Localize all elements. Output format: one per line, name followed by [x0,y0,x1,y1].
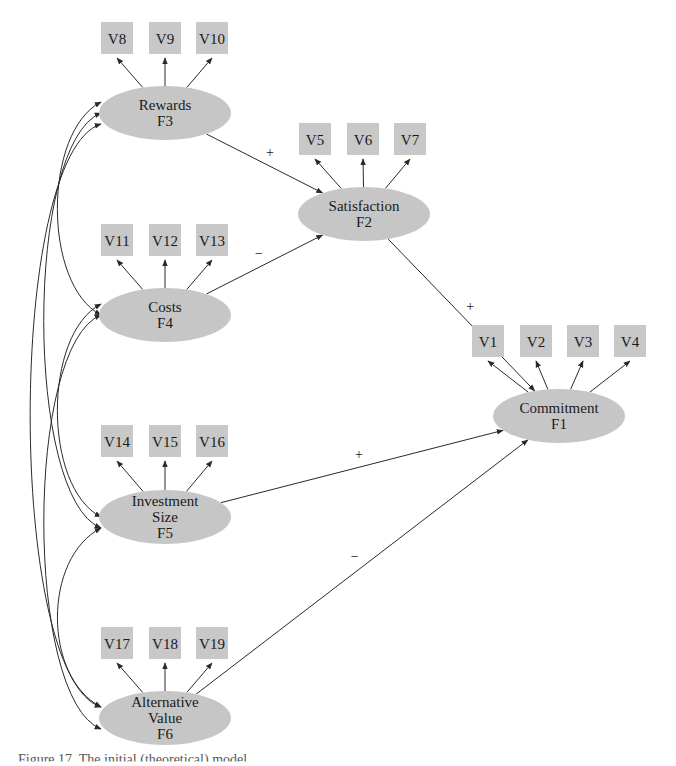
loading-arrow [590,361,630,392]
indicator-label: V7 [401,132,420,148]
loading-arrow [117,260,143,290]
path-diagram: +−++− V8V9V10V5V6V7V11V12V13V1V2V3V4V14V… [0,0,676,766]
indicator-label: V13 [199,233,225,249]
loading-arrow [117,461,143,492]
indicator-label: V19 [199,636,225,652]
factor-label: Size [152,509,178,525]
loading-arrow [571,361,583,389]
indicator-label: V4 [621,334,640,350]
indicator-label: V8 [108,31,126,47]
factor-label: Satisfaction [329,198,400,214]
factor-investment-size: InvestmentSizeF5 [99,490,231,544]
covariance-arcs [30,102,101,729]
indicator-v18: V18 [149,627,181,659]
indicator-label: V16 [199,434,225,450]
loading-arrow [187,663,212,693]
indicator-v5: V5 [299,123,331,155]
indicator-v9: V9 [149,22,181,54]
indicator-label: V2 [527,334,545,350]
factor-label: F2 [356,214,372,230]
factor-alternative-value: AlternativeValueF6 [99,691,231,745]
path-sign: − [351,549,359,564]
indicator-v2: V2 [520,325,552,357]
indicator-label: V9 [156,31,174,47]
factor-label: F1 [551,416,567,432]
indicator-label: V10 [199,31,225,47]
factor-label: F5 [157,525,173,541]
path-f6-to-f1 [196,440,528,694]
factor-label: Investment [132,493,199,509]
covariance-f3-f6 [30,124,101,707]
factor-commitment: CommitmentF1 [493,389,625,443]
loading-arrow [536,361,548,389]
factor-label: Alternative [131,694,199,710]
loading-arrow [117,58,143,88]
loading-arrow [315,159,341,189]
path-f2-to-f1 [388,239,535,391]
indicator-v6: V6 [347,123,379,155]
indicator-v17: V17 [101,627,133,659]
factor-label: F3 [157,113,173,129]
indicator-v14: V14 [101,425,133,457]
factor-satisfaction: SatisfactionF2 [298,187,430,241]
factor-label: Costs [148,299,182,315]
indicator-label: V14 [104,434,130,450]
loading-arrow [385,159,410,188]
indicator-v7: V7 [394,123,426,155]
indicator-v19: V19 [196,627,228,659]
indicator-label: V11 [104,233,129,249]
indicator-v10: V10 [196,22,228,54]
indicator-label: V15 [152,434,178,450]
indicator-label: V5 [306,132,324,148]
path-sign: + [355,447,363,462]
factor-rewards: RewardsF3 [99,86,231,140]
indicator-v11: V11 [101,224,133,256]
indicator-v12: V12 [149,224,181,256]
indicator-v3: V3 [567,325,599,357]
indicator-label: V17 [104,636,130,652]
indicator-label: V1 [479,334,497,350]
indicator-v4: V4 [614,325,646,357]
factor-label: Commitment [519,400,599,416]
loading-arrow [363,159,364,187]
indicator-label: V6 [354,132,373,148]
indicator-v1: V1 [472,325,504,357]
indicator-v15: V15 [149,425,181,457]
loading-arrow [187,58,212,88]
path-sign: + [266,145,274,160]
indicator-v8: V8 [101,22,133,54]
factor-label: Value [148,710,182,726]
indicator-v13: V13 [196,224,228,256]
factor-costs: CostsF4 [99,288,231,342]
path-sign: + [466,299,474,314]
loading-arrow [117,663,143,693]
path-sign: − [255,246,263,261]
indicator-label: V12 [152,233,178,249]
covariance-f4-f5 [57,304,101,517]
factor-label: Rewards [139,97,192,113]
covariance-f3-f4 [57,102,101,315]
loading-arrow [187,260,212,290]
factor-label: F4 [157,315,173,331]
loading-arrow [488,361,528,392]
indicator-v16: V16 [196,425,228,457]
loading-arrow [186,461,212,491]
covariance-f4-f6 [44,315,101,729]
factor-label: F6 [157,726,173,742]
indicator-label: V18 [152,636,178,652]
covariance-f5-f6 [57,528,101,707]
indicator-label: V3 [574,334,592,350]
